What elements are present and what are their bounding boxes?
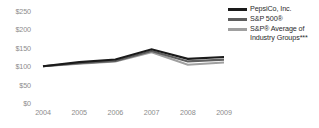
x-axis-tick-label: 2008 <box>180 108 196 117</box>
x-axis-tick-label: 2006 <box>108 108 124 117</box>
legend-color-swatch <box>228 18 247 21</box>
x-axis-tick-label: 2005 <box>71 108 87 117</box>
chart-legend: PepsiCo, Inc.S&P 500®S&P® Average of Ind… <box>228 5 319 44</box>
legend-item: PepsiCo, Inc. <box>228 5 319 14</box>
legend-color-swatch <box>228 8 247 11</box>
legend-item: S&P® Average of Industry Groups*** <box>228 25 319 42</box>
legend-label: S&P 500® <box>250 15 283 24</box>
x-axis-tick-label: 2009 <box>216 108 232 117</box>
legend-color-swatch <box>228 28 247 31</box>
legend-item: S&P 500® <box>228 15 319 24</box>
x-axis: 200420052006200720082009 <box>0 108 319 128</box>
x-axis-tick-label: 2004 <box>35 108 51 117</box>
stock-performance-line-chart: $0$50$100$150$200$250 200420052006200720… <box>0 0 319 128</box>
legend-label: S&P® Average of Industry Groups*** <box>250 25 319 42</box>
x-axis-tick-label: 2007 <box>144 108 160 117</box>
legend-label: PepsiCo, Inc. <box>250 5 291 14</box>
